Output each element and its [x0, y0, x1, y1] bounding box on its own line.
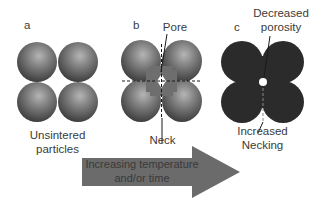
panel-c-particles	[221, 36, 304, 133]
decreased-porosity-line1: Decreased	[246, 6, 316, 20]
arrow-label-line2: and/or time	[82, 171, 202, 185]
arrow-label: Increasing temperature and/or time	[82, 157, 202, 185]
panel-a-letter: a	[24, 18, 30, 32]
arrow-label-line1: Increasing temperature	[82, 157, 202, 171]
panel-a-caption-line1: Unsintered	[10, 128, 105, 142]
panel-a-caption-line2: particles	[10, 142, 105, 156]
panel-c-letter: c	[234, 20, 240, 34]
panel-a-caption: Unsintered particles	[10, 128, 105, 156]
pore-label: Pore	[155, 20, 195, 34]
panel-a-particles	[17, 42, 98, 122]
increased-necking-label: Increased Necking	[230, 124, 295, 152]
panel-b-letter: b	[133, 18, 139, 32]
decreased-porosity-line2: porosity	[246, 20, 316, 34]
increased-necking-line2: Necking	[230, 138, 295, 152]
panel-b-particles	[121, 34, 202, 143]
neck-label: Neck	[140, 133, 185, 147]
increased-necking-line1: Increased	[230, 124, 295, 138]
decreased-porosity-label: Decreased porosity	[246, 6, 316, 34]
